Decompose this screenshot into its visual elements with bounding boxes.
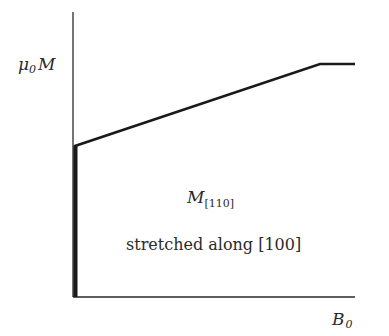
x-axis-label: B0	[331, 309, 353, 331]
annotation-stretched: stretched along [100]	[126, 235, 301, 254]
chart-canvas: μ0M B0 M[110] stretched along [100]	[0, 0, 389, 336]
annotation-m110: M[110]	[186, 187, 234, 210]
magnetization-curve	[75, 64, 355, 297]
y-axis-label: μ0M	[18, 54, 56, 76]
